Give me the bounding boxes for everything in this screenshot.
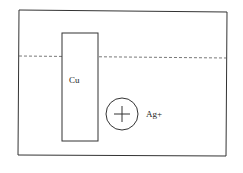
ag-ion bbox=[106, 98, 138, 130]
ag-ion-label: Ag+ bbox=[146, 109, 162, 119]
cu-electrode-label: Cu bbox=[69, 75, 80, 85]
container-outline bbox=[18, 10, 227, 156]
diagram-canvas: Cu Ag+ bbox=[0, 0, 243, 173]
solution-level-line bbox=[19, 56, 227, 58]
cu-electrode bbox=[62, 33, 98, 141]
